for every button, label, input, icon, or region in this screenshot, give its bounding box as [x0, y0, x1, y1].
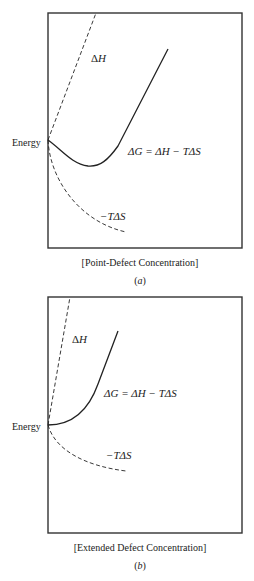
panel-b-enthalpy-label: ΔH: [72, 333, 88, 345]
panel-b-entropy-label: −TΔS: [106, 449, 132, 461]
panel-a-gibbs-label: ΔG = ΔH − TΔS: [127, 145, 201, 157]
diagram-canvas: Energy ΔH ΔG = ΔH − TΔS −TΔS [Point-Defe…: [0, 0, 254, 581]
panel-a-y-axis-label: Energy: [12, 137, 41, 148]
panel-b-caption: (b): [134, 560, 146, 572]
panel-b-enthalpy-curve: [48, 297, 70, 425]
panel-a-enthalpy-label: ΔH: [91, 52, 107, 64]
panel-a: Energy ΔH ΔG = ΔH − TΔS −TΔS [Point-Defe…: [12, 13, 242, 287]
panel-b-x-axis-label: [Extended Defect Concentration]: [74, 542, 207, 553]
panel-b-gibbs-label: ΔG = ΔH − TΔS: [103, 387, 177, 399]
panel-a-x-axis-label: [Point-Defect Concentration]: [82, 257, 199, 268]
panel-a-entropy-label: −TΔS: [100, 210, 126, 222]
panel-b-gibbs-curve: [48, 331, 118, 425]
panel-a-caption: (a): [134, 275, 146, 287]
panel-b: Energy ΔH ΔG = ΔH − TΔS −TΔS [Extended D…: [12, 297, 242, 572]
panel-a-frame: [48, 13, 242, 248]
panel-b-y-axis-label: Energy: [12, 421, 41, 432]
panel-a-enthalpy-curve: [48, 13, 96, 140]
panel-b-entropy-curve: [48, 425, 126, 471]
